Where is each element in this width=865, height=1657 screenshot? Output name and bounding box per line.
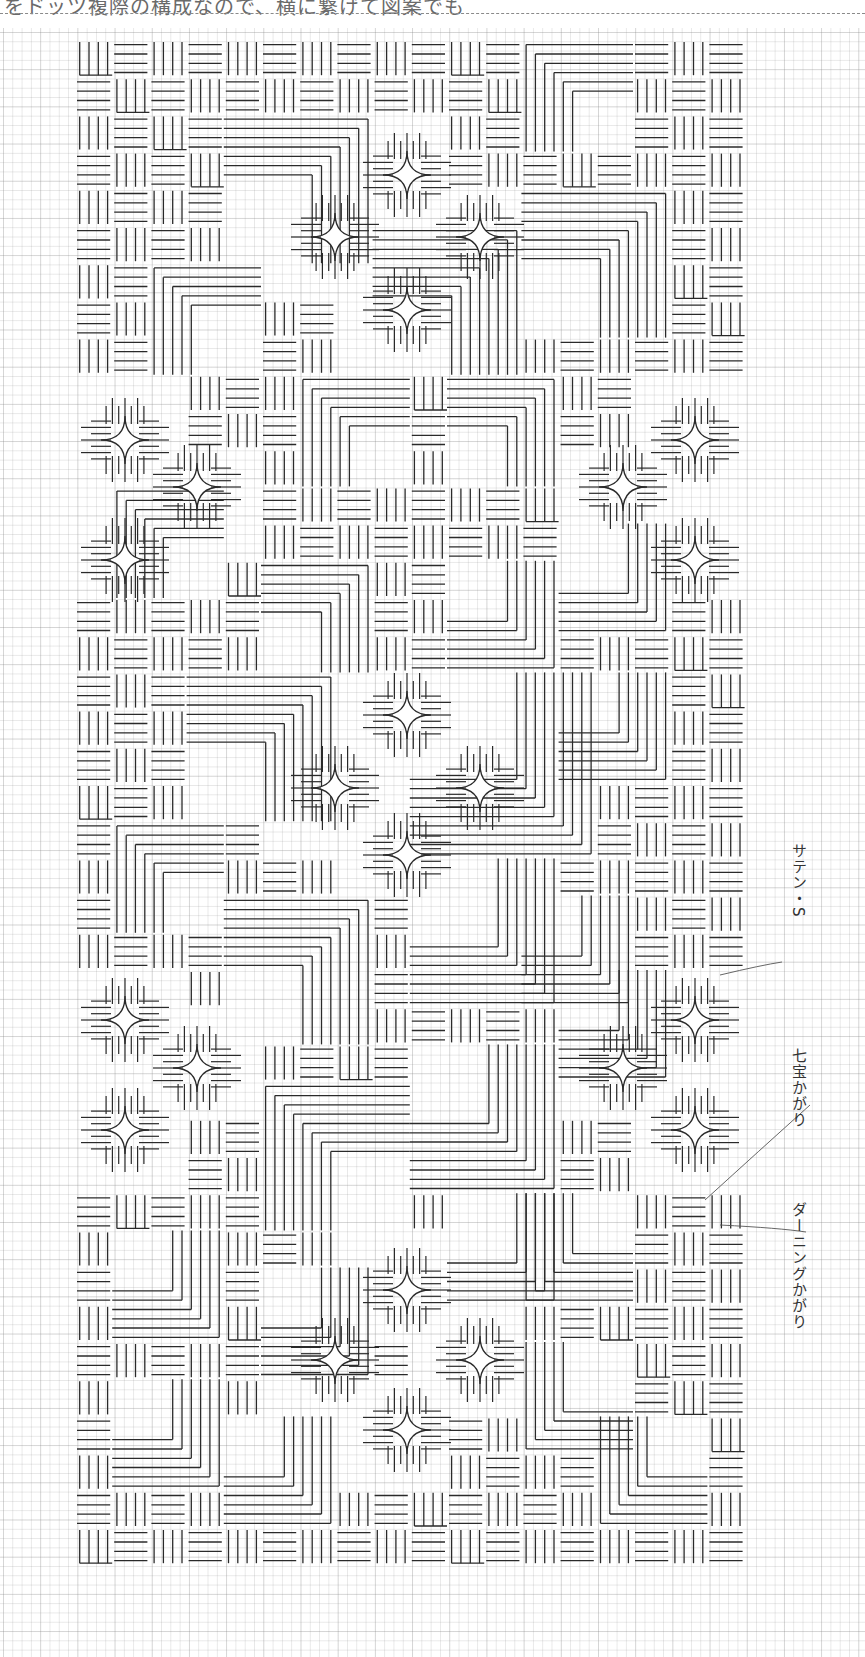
embroidery-pattern-chart xyxy=(0,0,865,1657)
label-darning-kagari: ダーニングかがり xyxy=(788,1202,809,1330)
label-shippo-kagari: 七宝かがり xyxy=(788,1048,809,1128)
label-satin-stitch: サテン・S xyxy=(788,843,809,918)
